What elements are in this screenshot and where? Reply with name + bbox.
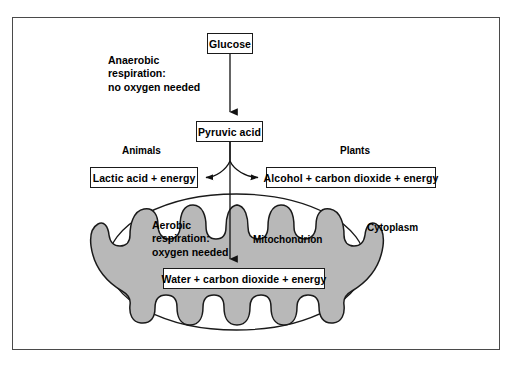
label-mitochondrion: Mitochondrion (253, 234, 322, 247)
node-lactic-acid-label: Lactic acid + energy (93, 172, 196, 184)
node-pyruvic-acid[interactable]: Pyruvic acid (196, 121, 263, 142)
node-glucose-label: Glucose (209, 38, 251, 50)
node-alcohol[interactable]: Alcohol + carbon dioxide + energy (266, 167, 436, 188)
mitochondrion-shape (91, 194, 384, 330)
arrow-pyruvic-to-lactic (206, 161, 230, 178)
node-lactic-acid[interactable]: Lactic acid + energy (90, 167, 198, 188)
arrow-pyruvic-to-alcohol (230, 161, 258, 178)
label-anaerobic-respiration: Anaerobic respiration: no oxygen needed (108, 54, 200, 94)
label-plants: Plants (340, 145, 370, 158)
node-pyruvic-acid-label: Pyruvic acid (198, 126, 261, 138)
label-cytoplasm: Cytoplasm (367, 222, 418, 235)
node-water-label: Water + carbon dioxide + energy (162, 273, 327, 285)
diagram-page: Glucose Pyruvic acid Lactic acid + energ… (0, 0, 512, 365)
label-animals: Animals (122, 145, 161, 158)
mitochondrion-inner-matrix (91, 205, 384, 325)
node-water[interactable]: Water + carbon dioxide + energy (163, 268, 325, 289)
node-alcohol-label: Alcohol + carbon dioxide + energy (264, 172, 439, 184)
node-glucose[interactable]: Glucose (207, 33, 253, 54)
label-aerobic-respiration: Aerobic respiration: oxygen needed (152, 219, 228, 259)
